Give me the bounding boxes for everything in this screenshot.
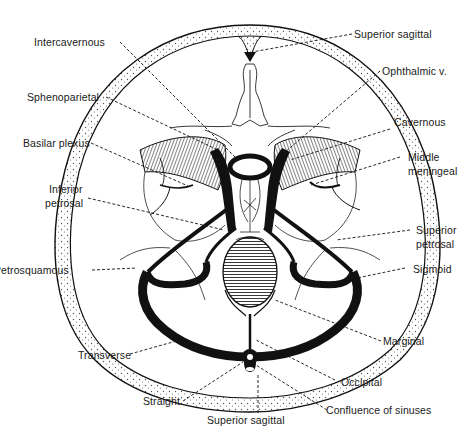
label-superior-petrosal-line2: petrosal xyxy=(416,238,454,250)
foramen-magnum xyxy=(223,237,277,307)
label-cavernous: Cavernous xyxy=(394,116,446,128)
label-superior-petrosal-line1: Superior xyxy=(416,224,457,236)
label-basilar-plexus: Basilar plexus xyxy=(23,137,90,149)
label-ophthalmic-vein: Ophthalmic v. xyxy=(382,65,447,77)
label-inferior-petrosal-line2: petrosal xyxy=(45,197,83,209)
label-petrosquamous: Petrosquamous xyxy=(0,264,69,276)
label-sigmoid: Sigmoid xyxy=(413,263,452,275)
label-sphenoparietal: Sphenoparietal xyxy=(27,91,99,103)
label-straight: Straight xyxy=(143,395,180,407)
label-occipital: Occipital xyxy=(341,376,382,388)
label-superior-sagittal-bottom: Superior sagittal xyxy=(207,414,285,426)
label-superior-sagittal-top: Superior sagittal xyxy=(354,28,432,40)
label-transverse: Transverse xyxy=(78,349,131,361)
venous-sinus-diagram: Intercavernous Sphenoparietal Basilar pl… xyxy=(0,0,475,437)
label-confluence-of-sinuses: Confluence of sinuses xyxy=(326,404,431,416)
label-inferior-petrosal-line1: Inferior xyxy=(49,183,82,195)
label-middle-meningeal-line2: meningeal xyxy=(408,165,457,177)
label-intercavernous: Intercavernous xyxy=(34,36,105,48)
label-middle-meningeal-line1: Middle xyxy=(408,151,440,163)
label-marginal: Marginal xyxy=(383,335,424,347)
